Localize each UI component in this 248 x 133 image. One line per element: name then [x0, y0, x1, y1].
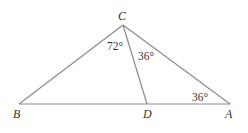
angle-label-dca: 36° [138, 50, 155, 62]
angle-label-bcd: 72° [107, 40, 124, 52]
vertex-label-c: C [118, 9, 127, 23]
angle-label-cad: 36° [192, 91, 209, 103]
segment-bc [19, 25, 123, 104]
triangle-diagram: C B D A 72° 36° 36° [0, 0, 248, 133]
vertex-label-a: A [224, 107, 233, 121]
vertex-label-d: D [142, 107, 152, 121]
vertex-label-b: B [13, 107, 21, 121]
segment-cd [123, 25, 147, 104]
segment-ca [123, 25, 230, 104]
